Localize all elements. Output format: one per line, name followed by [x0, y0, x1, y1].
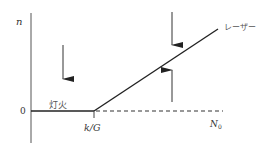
- lamp-region-label: 灯火: [49, 100, 67, 110]
- x-axis-label: N0: [209, 119, 222, 130]
- zero-label: 0: [20, 106, 26, 116]
- laser-line: [94, 29, 218, 111]
- x-axis-label-subscript: 0: [218, 123, 222, 130]
- laser-threshold-diagram: n 0 k/G N0 灯火 レーザー: [0, 0, 275, 155]
- threshold-label: k/G: [84, 122, 101, 133]
- y-axis-label: n: [16, 16, 22, 27]
- laser-region-label: レーザー: [224, 23, 256, 32]
